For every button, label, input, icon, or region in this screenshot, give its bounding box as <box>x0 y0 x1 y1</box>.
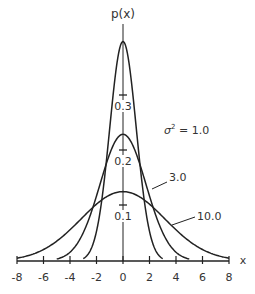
x-tick-labels: -8 -6 -4 -2 0 2 4 6 8 <box>12 271 233 284</box>
y-axis-label: p(x) <box>111 7 135 21</box>
annotation-variance-10: 10.0 <box>197 210 222 223</box>
svg-text:-6: -6 <box>38 271 49 284</box>
ytick-label-0.2: 0.2 <box>114 155 132 168</box>
svg-text:8: 8 <box>226 271 233 284</box>
ytick-label-0.3: 0.3 <box>114 100 132 113</box>
annotation-variance-1: σ2 = 1.0 <box>164 123 209 137</box>
ytick-label-0.1: 0.1 <box>114 210 132 223</box>
x-ticks <box>17 256 229 264</box>
leader-variance-10 <box>172 217 195 225</box>
svg-text:-2: -2 <box>91 271 102 284</box>
svg-text:-4: -4 <box>65 271 76 284</box>
svg-text:6: 6 <box>199 271 206 284</box>
svg-text:2: 2 <box>146 271 153 284</box>
gaussian-pdf-chart: 0.3 0.2 0.1 -8 -6 -4 -2 0 2 4 6 8 p(x) x… <box>0 0 255 294</box>
x-axis-label: x <box>240 254 247 267</box>
svg-text:-8: -8 <box>12 271 23 284</box>
svg-text:4: 4 <box>173 271 180 284</box>
leader-variance-3 <box>152 182 167 189</box>
svg-text:0: 0 <box>120 271 127 284</box>
annotation-variance-3: 3.0 <box>169 171 187 184</box>
